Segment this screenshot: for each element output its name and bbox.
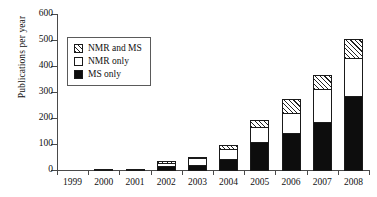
chart-legend: NMR and MSNMR onlyMS only — [67, 37, 151, 86]
x-tick-label: 2002 — [149, 177, 183, 187]
y-axis-title: Publications per year — [17, 0, 27, 137]
bar-segment — [344, 96, 363, 171]
y-tick-label: 400 — [39, 60, 53, 70]
x-tick-label: 2005 — [243, 177, 277, 187]
bar-stack — [126, 169, 145, 170]
legend-label: MS only — [88, 70, 121, 80]
legend-item: NMR and MS — [74, 42, 142, 55]
bar-stack — [188, 157, 207, 170]
bar-segment — [282, 99, 301, 114]
bar-stack — [282, 99, 301, 170]
y-tick-label: 300 — [39, 86, 53, 96]
legend-item: MS only — [74, 68, 142, 81]
x-tick-label: 2006 — [274, 177, 308, 187]
legend-swatch-icon — [74, 44, 83, 53]
bar-stack — [344, 39, 363, 170]
chart-figure: Publications per year 010020030040050060… — [0, 0, 377, 197]
x-tick-mark — [57, 170, 58, 175]
bar-segment — [344, 39, 363, 59]
x-tick-label: 2003 — [180, 177, 214, 187]
y-tick-label: 500 — [39, 34, 53, 44]
bar-segment — [126, 169, 145, 171]
y-axis-line — [57, 14, 58, 171]
y-tick-label: 200 — [39, 112, 53, 122]
x-tick-mark — [275, 170, 276, 175]
bar-segment — [282, 133, 301, 171]
bar-segment — [250, 127, 269, 143]
y-tick-label: 0 — [48, 164, 53, 174]
x-tick-label: 2001 — [118, 177, 152, 187]
legend-swatch-icon — [74, 70, 83, 79]
x-tick-mark — [182, 170, 183, 175]
legend-swatch-icon — [74, 57, 83, 66]
x-tick-label: 1999 — [56, 177, 90, 187]
x-tick-mark — [213, 170, 214, 175]
bar-stack — [94, 169, 113, 170]
bar-segment — [282, 113, 301, 134]
x-tick-mark — [88, 170, 89, 175]
bar-stack — [157, 161, 176, 170]
bar-segment — [313, 122, 332, 171]
x-tick-mark — [244, 170, 245, 175]
bar-segment — [188, 165, 207, 171]
x-tick-mark — [119, 170, 120, 175]
x-tick-mark — [338, 170, 339, 175]
x-tick-mark — [369, 170, 370, 175]
x-tick-mark — [307, 170, 308, 175]
bar-stack — [250, 120, 269, 170]
bar-stack — [313, 75, 332, 170]
bar-stack — [219, 145, 238, 170]
bar-segment — [94, 169, 113, 171]
bar-segment — [313, 89, 332, 122]
y-tick-label: 100 — [39, 138, 53, 148]
x-tick-label: 2000 — [87, 177, 121, 187]
legend-label: NMR and MS — [88, 44, 142, 54]
x-tick-label: 2004 — [212, 177, 246, 187]
bar-segment — [219, 159, 238, 171]
bar-segment — [157, 166, 176, 171]
legend-item: NMR only — [74, 55, 142, 68]
x-tick-label: 2008 — [336, 177, 370, 187]
x-tick-mark — [151, 170, 152, 175]
y-tick-label: 600 — [39, 8, 53, 18]
legend-label: NMR only — [88, 57, 129, 67]
bar-segment — [250, 142, 269, 171]
x-tick-label: 2007 — [305, 177, 339, 187]
bar-segment — [344, 58, 363, 97]
bar-segment — [313, 75, 332, 90]
